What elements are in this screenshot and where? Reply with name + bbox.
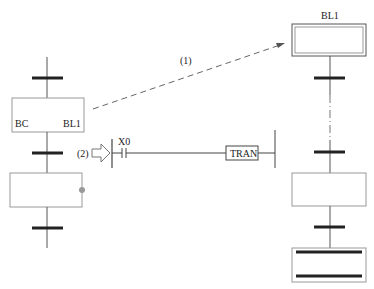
arrowhead-icon	[276, 43, 285, 48]
left-step-box-2	[10, 173, 82, 207]
annotation-2: (2)	[77, 148, 89, 160]
left-sfc-chart	[10, 57, 85, 248]
right-chart-title: BL1	[321, 10, 339, 21]
sfc-diagram: BC BL1 (1) (2) X0 TRAN BL1	[0, 0, 374, 289]
initial-step-inner	[295, 27, 363, 53]
right-step-box	[292, 173, 366, 206]
hollow-arrow-icon	[92, 144, 110, 162]
contact-label-x0: X0	[118, 136, 130, 147]
right-sfc-chart	[292, 24, 366, 282]
call-arrow-1	[93, 43, 285, 109]
coil-label-tran: TRAN	[230, 148, 257, 159]
active-step-dot	[79, 187, 85, 193]
step-label-bc: BC	[15, 118, 29, 129]
annotation-1: (1)	[180, 55, 192, 67]
step-label-bl1: BL1	[63, 118, 81, 129]
